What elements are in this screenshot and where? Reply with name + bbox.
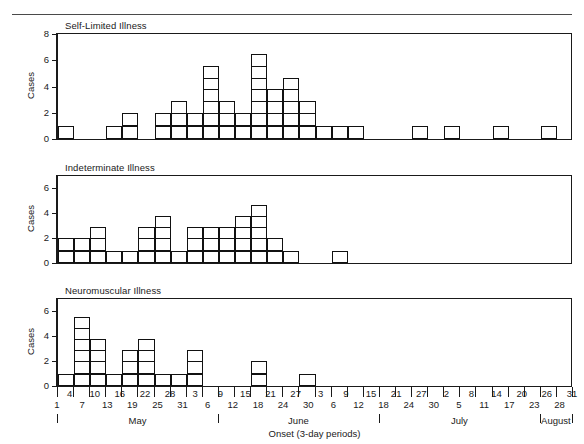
bar [138,336,154,386]
y-tick-label: 0 [27,257,49,268]
month-tick [572,414,573,423]
case-cell [332,251,348,263]
case-cell [187,126,203,139]
case-cell [251,361,267,373]
case-cell [235,238,251,250]
case-cell [235,126,251,139]
case-cell [541,126,557,139]
x-tick-label: 15 [234,388,256,399]
case-cell [171,126,187,139]
bar [203,226,219,263]
x-tick-label: 3 [310,388,332,399]
x-tick-label: 12 [347,399,369,410]
case-cell [171,251,187,263]
bar [541,126,557,139]
x-tick-label: 9 [209,388,231,399]
case-cell [171,113,187,126]
y-tick-mark [52,87,56,88]
x-tick-label: 9 [335,388,357,399]
case-cell [58,238,74,250]
bar [219,100,235,139]
case-cell [58,374,74,386]
x-tick-label: 23 [523,399,545,410]
y-tick-mark [52,188,56,189]
y-axis-spine [56,175,57,264]
bar [251,47,267,139]
x-tick-label: 26 [536,388,558,399]
x-tick-label: 31 [172,399,194,410]
x-tick-label: 2 [435,388,457,399]
case-cell [203,126,219,139]
bar [171,374,187,386]
x-tick-label: 20 [511,388,533,399]
epidemic-curve-figure: Self-Limited Illness02468CasesIndetermin… [0,0,584,444]
case-cell [251,251,267,263]
bar [155,213,171,263]
month-label: August [540,415,572,426]
bar [299,100,315,139]
bar [283,73,299,139]
x-tick-label: 18 [373,399,395,410]
case-cell [187,113,203,126]
y-tick-mark [52,263,56,264]
x-tick-label: 13 [96,399,118,410]
y-tick-mark [52,336,56,337]
x-tick-label: 28 [159,388,181,399]
month-label: June [218,415,379,426]
case-cell [203,113,219,126]
y-tick-mark [52,361,56,362]
case-cell [267,113,283,126]
x-tick-separator [508,387,509,397]
case-cell [155,374,171,386]
x-tick-label: 6 [197,399,219,410]
bar [251,361,267,386]
case-cell [155,126,171,139]
case-cell [122,126,138,139]
x-tick-label: 27 [410,388,432,399]
y-axis-title: Cases [25,55,36,115]
bar [90,226,106,263]
y-tick-mark [52,113,56,114]
case-cell [219,238,235,250]
case-cell [187,238,203,250]
case-cell [283,126,299,139]
bar [106,251,122,263]
case-cell [90,251,106,263]
bar [155,113,171,139]
case-cell [267,238,283,250]
case-cell [171,374,187,386]
plot-area [57,33,572,140]
bar [122,113,138,139]
case-cell [267,126,283,139]
x-tick-label: 3 [184,388,206,399]
x-tick-label: 21 [385,388,407,399]
x-tick-label: 8 [461,388,483,399]
x-tick-label: 10 [84,388,106,399]
bar [412,126,428,139]
bar [493,126,509,139]
case-cell [493,126,509,139]
y-tick-mark [52,386,56,387]
y-tick-mark [52,238,56,239]
case-cell [203,251,219,263]
y-axis-spine [56,298,57,387]
case-cell [187,361,203,373]
case-cell [235,113,251,126]
case-cell [187,374,203,386]
x-tick-label: 15 [360,388,382,399]
case-cell [138,374,154,386]
case-cell [444,126,460,139]
x-tick-label: 6 [322,399,344,410]
x-tick-label: 30 [297,399,319,410]
case-cell [138,251,154,263]
x-tick-label: 25 [146,399,168,410]
bar [106,126,122,139]
case-cell [122,113,138,126]
panel-title: Indeterminate Illness [65,162,155,173]
case-cell [106,374,122,386]
case-cell [251,238,267,250]
x-tick-label: 12 [222,399,244,410]
bar [332,126,348,139]
case-cell [138,238,154,250]
case-cell [90,361,106,373]
